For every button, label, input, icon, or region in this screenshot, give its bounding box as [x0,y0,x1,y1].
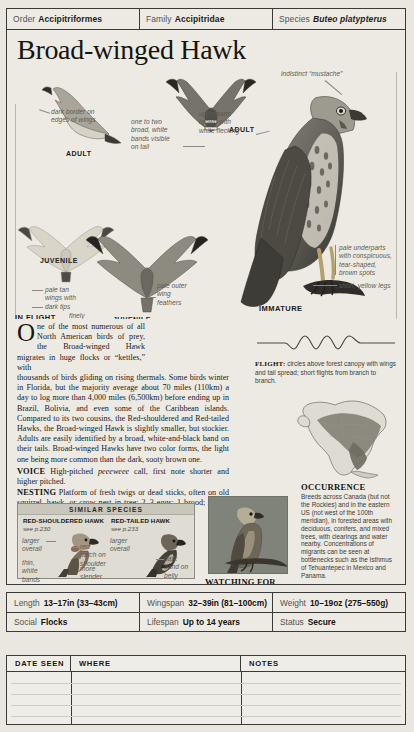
callout-upperparts: upperpartsbrown withwhite flecking [199,110,257,135]
similar-species-0-leader-larger [46,541,56,542]
similar-species-0-callout-larger: largeroverall [22,537,48,554]
field-voice-italic: peeeweee [98,467,129,476]
sighting-log-rule [11,705,401,706]
callout-barred-tail: finelybarred,all-browntail [69,312,107,319]
occurrence-block: OCCURRENCE Breeds across Canada (but not… [301,482,397,580]
occurrence-text: Breeds across Canada (but not the Rockie… [301,493,397,580]
measure-wingspan: Wingspan 32–39in (81–100cm) [140,593,273,612]
account-intro-rest: thousands of birds gliding on rising the… [17,373,229,465]
callout-white-bands: one to twobroad, whitebands visibleon ta… [131,118,183,152]
taxonomy-species-label: Species [279,14,310,24]
taxonomy-family-value: Accipitridae [175,14,225,24]
sighting-log-table: DATE SEEN WHERE NOTES [6,655,406,725]
measure-weight: Weight 10–19oz (275–550g) [273,593,405,612]
similar-species-1-callout-larger: largeroverall [110,537,136,554]
field-voice-text-before: High-pitched [50,467,98,476]
similar-species-0-callout-thin-bands: thin,whitebands [22,559,44,584]
similar-species-1-callout-dark-band: darkband onbelly [164,555,192,580]
measurements-row-1: Length 13–17in (33–43cm) Wingspan 32–39i… [7,593,405,612]
field-voice: VOICE High-pitched peeeweee call, first … [17,467,229,488]
taxonomy-species: Species Buteo platypterus [273,9,405,29]
measure-wingspan-value: 32–39in (81–100cm) [188,598,267,608]
field-guide-page: Order Accipitriformes Family Accipitrida… [0,0,414,732]
flight-pattern-diagram [255,330,397,354]
measure-wingspan-label: Wingspan [147,598,184,608]
range-map-illustration [295,396,395,480]
similar-species-0-leader-red-patch [73,547,80,548]
flight-caption-key: FLIGHT: [255,360,285,368]
watching-for-prey-photo [208,496,288,574]
leader-pale-tan [32,290,43,291]
callout-pale-outer: pale outerwingfeathers [157,282,201,307]
stage-juvenile-left: JUVENILE [40,257,78,264]
column-header-where: WHERE [71,656,241,671]
taxonomy-species-value: Buteo platypterus [313,14,387,24]
similar-species-header: SIMILAR SPECIES [18,504,194,515]
watching-for-prey-heading: WATCHING FOR PREY [205,577,297,585]
taxonomy-family: Family Accipitridae [140,9,273,29]
taxonomy-order-value: Accipitriformes [38,14,102,24]
measure-length-label: Length [14,598,40,608]
similar-species-body: RED-SHOULDERED HAWK see p.230 largerover… [18,515,194,579]
field-nesting-key: NESTING [17,488,56,497]
callout-yellow-legs: short, yellow legs [339,282,401,290]
sighting-log-header: DATE SEEN WHERE NOTES [7,656,405,672]
flight-caption: FLIGHT: circles above forest canopy with… [255,360,397,384]
measure-lifespan-value: Up to 14 years [183,617,240,627]
stage-adult-upper-left: ADULT [66,150,91,157]
taxonomy-order: Order Accipitriformes [7,9,140,29]
stage-immature: IMMATURE [259,304,302,313]
stage-juvenile-center: JUVENILE [113,316,151,319]
measure-status-value: Secure [308,617,336,627]
leader-pale-underparts [335,245,336,275]
taxonomy-order-label: Order [13,14,35,24]
watching-for-prey-block: WATCHING FOR PREY From an elevated perch… [205,496,297,585]
page-title: Broad-winged Hawk [17,34,246,66]
sighting-log-rule [11,694,401,695]
similar-species-1-leader-dark-band [156,559,164,560]
species-account-frame: Broad-winged Hawk dark border onedges of… [6,30,406,585]
account-intro-lead: ne of the most numerous of all North Ame… [17,322,145,372]
measure-lifespan: Lifespan Up to 14 years [140,613,273,631]
measure-weight-value: 10–19oz (275–550g) [310,598,388,608]
measurements-row-2: Social Flocks Lifespan Up to 14 years St… [7,612,405,631]
measure-social-label: Social [14,617,37,627]
range-map [295,396,395,480]
leader-pale-outer [147,297,156,298]
similar-species-0-name[interactable]: RED-SHOULDERED HAWK [23,517,104,524]
measure-status: Status Secure [273,613,405,631]
sighting-log-body[interactable] [7,672,405,724]
measure-length: Length 13–17in (33–43cm) [7,593,140,612]
taxonomy-family-label: Family [146,14,172,24]
callout-mustache: indistinct “mustache” [281,70,369,78]
leader-white-bands [183,146,205,147]
measure-lifespan-label: Lifespan [147,617,179,627]
occurrence-heading: OCCURRENCE [301,482,397,492]
measure-weight-label: Weight [280,598,306,608]
sighting-log-rule [11,683,401,684]
callout-dark-border: dark border onedges of wings [51,108,113,125]
leader-dark-tips [32,307,43,308]
measure-status-label: Status [280,617,304,627]
column-header-notes: NOTES [241,656,405,671]
measure-social: Social Flocks [7,613,140,631]
similar-species-0-callout-slender: moreslender [80,565,106,582]
perched-hawk-photo-art [209,497,288,574]
similar-species-1-name[interactable]: RED-TAILED HAWK [111,517,170,524]
taxonomy-bar: Order Accipitriformes Family Accipitrida… [6,8,406,30]
similar-species-heading: SIMILAR SPECIES [69,506,143,513]
flight-pattern-block: FLIGHT: circles above forest canopy with… [255,330,397,384]
leader-yellow-legs [313,285,337,286]
sighting-log-rule [11,716,401,717]
similar-species-box: SIMILAR SPECIES RED-SHOULDERED HAWK see … [17,503,195,579]
column-header-date-seen: DATE SEEN [7,656,71,671]
field-voice-key: VOICE [17,467,45,476]
measure-length-value: 13–17in (33–43cm) [44,598,118,608]
measurements-table: Length 13–17in (33–43cm) Wingspan 32–39i… [6,592,406,632]
callout-pale-underparts: pale underpartswith conspicuous,tear-sha… [339,244,401,278]
measure-social-value: Flocks [41,617,68,627]
illustration-plate: dark border onedges of wings one to twob… [7,64,406,319]
drop-cap: O [17,322,37,343]
